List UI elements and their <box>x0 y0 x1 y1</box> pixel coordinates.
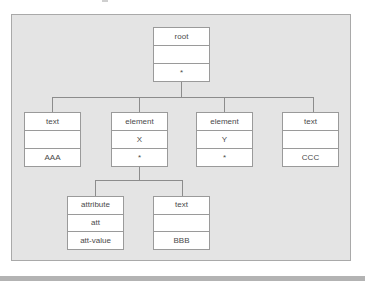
node-text-aaa: text AAA <box>24 112 81 167</box>
node-name: Y <box>197 131 252 149</box>
node-value: BBB <box>154 232 209 249</box>
node-type: text <box>154 197 209 215</box>
node-value: att-value <box>68 232 123 249</box>
connector-to-element-x <box>139 97 140 112</box>
connector-level2-bus <box>95 180 183 181</box>
connector-to-element-y <box>224 97 225 112</box>
node-name <box>25 131 80 149</box>
node-value: * <box>112 149 167 166</box>
node-type: text <box>283 113 338 131</box>
node-type: root <box>154 28 209 46</box>
node-type: text <box>25 113 80 131</box>
node-type: attribute <box>68 197 123 215</box>
bottom-divider-bar <box>0 276 365 281</box>
node-text-bbb: text BBB <box>153 196 210 250</box>
connector-to-attribute <box>95 180 96 196</box>
node-root: root * <box>153 27 210 82</box>
cropped-caption-fragment <box>102 0 108 2</box>
connector-to-text-ccc <box>313 97 314 112</box>
connector-level1-bus <box>52 97 314 98</box>
node-attribute-att: attribute att att-value <box>67 196 124 250</box>
node-name <box>283 131 338 149</box>
connector-root-stem <box>181 82 182 97</box>
node-element-x: element X * <box>111 112 168 167</box>
node-element-y: element Y * <box>196 112 253 167</box>
node-name: X <box>112 131 167 149</box>
node-type: element <box>197 113 252 131</box>
node-value: AAA <box>25 149 80 166</box>
node-value: * <box>154 64 209 81</box>
node-name: att <box>68 215 123 233</box>
connector-element-x-stem <box>139 167 140 180</box>
node-text-ccc: text CCC <box>282 112 339 167</box>
connector-to-text-bbb <box>182 180 183 196</box>
connector-to-text-aaa <box>52 97 53 112</box>
node-value: * <box>197 149 252 166</box>
node-name <box>154 215 209 233</box>
node-name <box>154 46 209 64</box>
node-value: CCC <box>283 149 338 166</box>
node-type: element <box>112 113 167 131</box>
